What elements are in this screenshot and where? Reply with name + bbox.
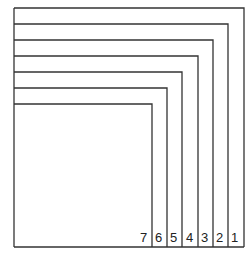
nested-corners-diagram: 1 2 3 4 5 6 7 <box>0 0 252 253</box>
layer-6-line <box>14 88 167 247</box>
label-1: 1 <box>231 230 238 245</box>
label-3: 3 <box>201 230 208 245</box>
layer-5-line <box>14 72 182 247</box>
layer-4-line <box>14 56 198 247</box>
label-7: 7 <box>140 230 147 245</box>
label-2: 2 <box>216 230 223 245</box>
layer-3-line <box>14 40 213 247</box>
label-5: 5 <box>170 230 177 245</box>
label-4: 4 <box>186 230 193 245</box>
layer-7-line <box>14 104 152 247</box>
layer-2-line <box>14 24 228 247</box>
label-6: 6 <box>155 230 162 245</box>
layer-1-line <box>14 8 244 247</box>
